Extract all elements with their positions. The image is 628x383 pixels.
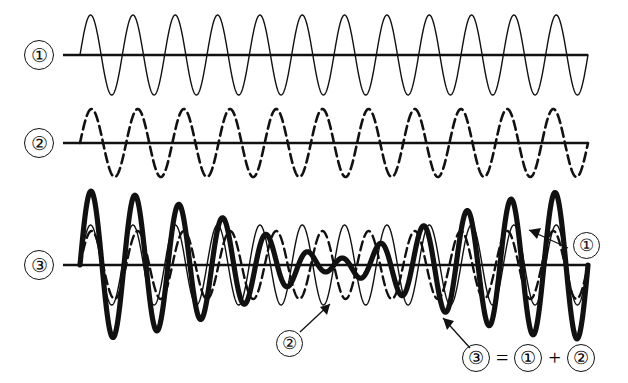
arrowhead-wave-2 xyxy=(320,304,330,315)
row-label-wave-2: ② xyxy=(24,128,54,158)
callout-badge-wave-1-text: ① xyxy=(579,237,594,254)
callout-leader-lines-group xyxy=(300,228,568,348)
formula-operand-b-text: ② xyxy=(573,349,589,367)
axis-lines-group xyxy=(63,55,588,265)
sum-formula: ③ = ① + ② xyxy=(462,344,595,372)
wave-superposition-figure: ① ② ③ ① ② ③ = ① + ② xyxy=(0,0,628,383)
formula-result-text: ③ xyxy=(468,349,484,367)
formula-plus-sign: + xyxy=(547,347,561,369)
waveform-wave-3-sum xyxy=(80,191,588,339)
formula-equals-sign: = xyxy=(495,347,509,369)
row-label-wave-3: ③ xyxy=(24,250,54,280)
waveform-canvas xyxy=(0,0,628,383)
callout-badge-wave-1: ① xyxy=(573,232,600,259)
formula-operand-b-badge: ② xyxy=(567,344,595,372)
waveform-wave-1 xyxy=(80,15,588,95)
waveform-wave-2 xyxy=(80,109,588,177)
waveform-curves-group xyxy=(80,15,588,339)
arrowhead-wave-3 xyxy=(443,318,454,330)
callout-badge-wave-2: ② xyxy=(276,330,303,357)
row-label-wave-3-text: ③ xyxy=(31,256,48,275)
formula-result-badge: ③ xyxy=(462,344,490,372)
waveform-wave-2-overlay xyxy=(80,231,588,299)
row-label-wave-1: ① xyxy=(24,40,54,70)
formula-operand-a-text: ① xyxy=(520,349,536,367)
leader-line-wave-1 xyxy=(529,230,568,248)
row-label-wave-1-text: ① xyxy=(31,46,48,65)
callout-badge-wave-2-text: ② xyxy=(282,335,297,352)
row-label-wave-2-text: ② xyxy=(31,134,48,153)
arrowhead-wave-1 xyxy=(529,228,541,239)
waveform-wave-1-overlay xyxy=(80,225,588,305)
leader-line-wave-2 xyxy=(300,304,330,332)
formula-operand-a-badge: ① xyxy=(514,344,542,372)
